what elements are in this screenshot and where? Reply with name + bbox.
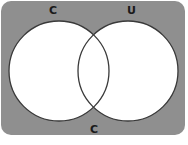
right-set-label: U — [127, 5, 136, 16]
left-set-label: C — [49, 5, 57, 16]
bottom-label: C — [90, 124, 98, 135]
